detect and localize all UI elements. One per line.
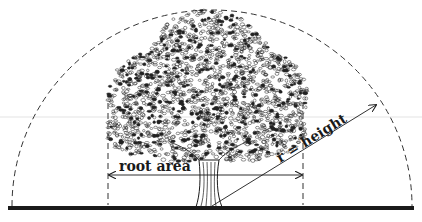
leaf-stipple bbox=[160, 80, 164, 84]
leaf-stipple bbox=[108, 85, 112, 87]
leaf-stipple bbox=[248, 135, 251, 137]
leaf-stipple bbox=[192, 96, 195, 99]
leaf-stipple bbox=[153, 121, 156, 124]
leaf-stipple bbox=[218, 46, 221, 48]
leaf-stipple bbox=[284, 107, 288, 110]
leaf-stipple bbox=[258, 150, 263, 154]
leaf-stipple bbox=[168, 101, 172, 104]
leaf-stipple bbox=[254, 120, 259, 122]
leaf-stipple bbox=[116, 127, 120, 130]
leaf-stipple bbox=[135, 74, 138, 76]
leaf-stipple bbox=[181, 42, 184, 45]
leaf-stipple bbox=[202, 108, 205, 111]
leaf-stipple bbox=[175, 39, 180, 42]
leaf-stipple bbox=[244, 43, 247, 45]
leaf-stipple bbox=[166, 110, 170, 112]
leaf-stipple bbox=[176, 132, 180, 135]
leaf-stipple bbox=[263, 110, 268, 112]
leaf-stipple bbox=[121, 136, 124, 138]
leaf-stipple bbox=[160, 132, 164, 135]
leaf-stipple bbox=[284, 57, 288, 59]
leaf-stipple bbox=[159, 115, 161, 117]
leaf-stipple bbox=[167, 45, 171, 47]
leaf-stipple bbox=[109, 104, 113, 107]
leaf-stipple bbox=[119, 109, 124, 111]
leaf-stipple bbox=[152, 72, 155, 74]
leaf-stipple bbox=[216, 107, 219, 110]
leaf-stipple bbox=[195, 28, 198, 31]
leaf-stipple bbox=[211, 153, 214, 155]
leaf-stipple bbox=[178, 102, 183, 105]
leaf-stipple bbox=[205, 112, 209, 114]
leaf-stipple bbox=[122, 102, 125, 104]
leaf-stipple bbox=[214, 62, 218, 65]
leaf-stipple bbox=[244, 126, 248, 128]
leaf-stipple bbox=[266, 46, 270, 48]
leaf-stipple bbox=[267, 107, 269, 110]
leaf-stipple bbox=[195, 112, 199, 115]
leaf-stipple bbox=[127, 67, 130, 70]
leaf-stipple bbox=[295, 90, 299, 92]
leaf-stipple bbox=[180, 132, 183, 134]
leaf-stipple bbox=[210, 103, 214, 106]
leaf-stipple bbox=[225, 125, 228, 128]
leaf-stipple bbox=[248, 122, 252, 125]
leaf-stipple bbox=[167, 132, 170, 135]
leaf-stipple bbox=[236, 101, 239, 104]
leaf-stipple bbox=[129, 117, 133, 121]
root-area-label: root area bbox=[119, 158, 191, 174]
leaf-stipple bbox=[148, 117, 151, 120]
leaf-stipple bbox=[171, 127, 174, 130]
leaf-stipple bbox=[215, 130, 218, 132]
leaf-stipple bbox=[230, 143, 234, 146]
leaf-stipple bbox=[204, 59, 209, 61]
leaf-stipple bbox=[211, 82, 214, 85]
leaf-stipple bbox=[240, 107, 242, 110]
leaf-stipple bbox=[227, 79, 230, 83]
leaf-stipple bbox=[194, 49, 198, 52]
leaf-stipple bbox=[211, 66, 215, 68]
leaf-stipple bbox=[216, 31, 221, 34]
leaf-stipple bbox=[265, 49, 268, 52]
leaf-stipple bbox=[230, 14, 234, 17]
leaf-stipple bbox=[158, 76, 162, 78]
leaf-stipple bbox=[250, 37, 255, 39]
leaf-stipple bbox=[200, 139, 203, 141]
leaf-stipple bbox=[217, 142, 221, 144]
leaf-stipple bbox=[184, 26, 187, 29]
leaf-stipple bbox=[234, 70, 238, 73]
leaf-stipple bbox=[224, 91, 228, 94]
leaf-stipple bbox=[200, 37, 204, 40]
leaf-stipple bbox=[163, 105, 167, 107]
leaf-stipple bbox=[161, 84, 166, 86]
leaf-stipple bbox=[214, 155, 219, 158]
leaf-stipple bbox=[203, 37, 206, 40]
leaf-stipple bbox=[203, 123, 206, 126]
leaf-stipple bbox=[298, 80, 302, 83]
leaf-stipple bbox=[230, 56, 233, 58]
leaf-stipple bbox=[137, 123, 140, 126]
leaf-stipple bbox=[303, 92, 308, 95]
leaf-stipple bbox=[122, 112, 125, 114]
leaf-stipple bbox=[245, 104, 250, 107]
leaf-stipple bbox=[124, 106, 129, 108]
leaf-stipple bbox=[147, 110, 152, 112]
leaf-stipple bbox=[236, 17, 238, 19]
leaf-stipple bbox=[126, 74, 129, 77]
leaf-stipple bbox=[191, 25, 195, 28]
leaf-stipple bbox=[160, 39, 162, 42]
leaf-stipple bbox=[238, 60, 241, 64]
leaf-stipple bbox=[265, 144, 268, 147]
leaf-stipple bbox=[157, 53, 160, 56]
leaf-stipple bbox=[248, 54, 251, 56]
leaf-stipple bbox=[132, 113, 137, 117]
leaf-stipple bbox=[148, 123, 151, 125]
leaf-stipple bbox=[260, 119, 263, 121]
leaf-stipple bbox=[122, 80, 125, 82]
leaf-stipple bbox=[140, 113, 144, 116]
leaf-stipple bbox=[183, 134, 187, 137]
leaf-stipple bbox=[298, 86, 301, 89]
leaf-stipple bbox=[215, 75, 219, 78]
leaf-stipple bbox=[163, 44, 166, 46]
leaf-stipple bbox=[296, 106, 299, 109]
